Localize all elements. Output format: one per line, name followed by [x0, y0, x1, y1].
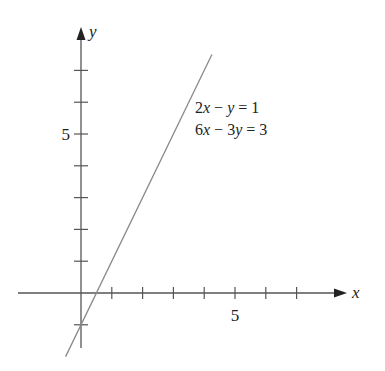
equation-label-1: 2x − y = 1	[195, 99, 259, 117]
line-2x-minus-y-equals-1	[66, 55, 212, 357]
y-tick-label-5: 5	[62, 125, 71, 144]
x-axis-arrow-icon	[334, 289, 347, 298]
coordinate-plot: x y 5 5 2x − y = 1 6x − 3y = 3	[0, 0, 385, 371]
y-axis-arrow-icon	[77, 27, 86, 40]
x-axis-label: x	[351, 283, 360, 302]
x-tick-label-5: 5	[231, 306, 240, 325]
equation-label-2: 6x − 3y = 3	[195, 121, 267, 139]
y-axis-label: y	[87, 22, 97, 41]
